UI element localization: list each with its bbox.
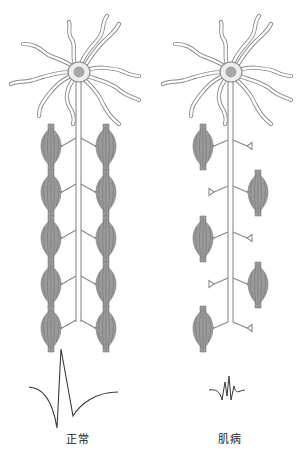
normal-waveform: [29, 349, 118, 428]
muscle-fibers: [193, 124, 268, 352]
myopathy-motor-unit: [163, 16, 291, 400]
nucleus: [226, 67, 236, 77]
axon-branches: [214, 140, 247, 328]
myopathy-label: 肌病: [200, 430, 260, 446]
muscle-fibers: [41, 124, 116, 352]
myopathy-waveform: [209, 376, 245, 400]
axon: [76, 80, 81, 322]
neuron-soma: [220, 62, 242, 82]
motor-unit-diagram: [0, 0, 304, 457]
normal-label: 正常: [48, 430, 108, 446]
normal-motor-unit: [11, 16, 139, 428]
nucleus: [74, 67, 84, 77]
axon-branches: [62, 138, 95, 328]
axon: [228, 80, 233, 322]
neuron-soma: [68, 62, 90, 82]
